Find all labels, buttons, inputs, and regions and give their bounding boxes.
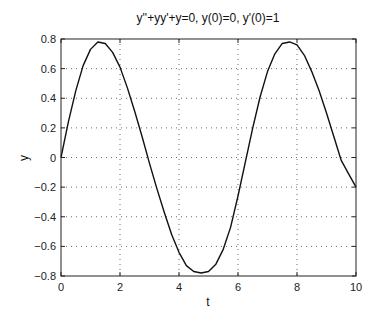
y-axis-ticks: −0.8−0.6−0.4−0.200.20.40.60.8 bbox=[34, 33, 356, 282]
y-tick-label: −0.4 bbox=[34, 211, 56, 223]
line-chart: y''+yy'+y=0, y(0)=0, y'(0)=1 −0.8−0.6−0.… bbox=[0, 0, 381, 324]
y-tick-label: 0.8 bbox=[41, 33, 56, 45]
x-tick-label: 0 bbox=[58, 281, 64, 293]
x-axis-ticks: 0246810 bbox=[58, 39, 362, 293]
x-tick-label: 4 bbox=[176, 281, 182, 293]
y-tick-label: 0 bbox=[50, 152, 56, 164]
chart-title: y''+yy'+y=0, y(0)=0, y'(0)=1 bbox=[137, 11, 280, 25]
y-tick-label: 0.2 bbox=[41, 122, 56, 134]
x-axis-label: t bbox=[206, 295, 210, 309]
grid-lines bbox=[61, 39, 356, 276]
y-tick-label: 0.4 bbox=[41, 92, 56, 104]
y-tick-label: 0.6 bbox=[41, 63, 56, 75]
y-tick-label: −0.2 bbox=[34, 181, 56, 193]
x-tick-label: 8 bbox=[294, 281, 300, 293]
y-tick-label: −0.6 bbox=[34, 240, 56, 252]
y-tick-label: −0.8 bbox=[34, 270, 56, 282]
x-tick-label: 6 bbox=[235, 281, 241, 293]
x-tick-label: 10 bbox=[350, 281, 362, 293]
x-tick-label: 2 bbox=[117, 281, 123, 293]
y-axis-label: y bbox=[17, 155, 31, 161]
